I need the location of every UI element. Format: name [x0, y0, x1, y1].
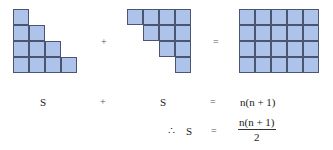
grid-cell	[287, 9, 303, 25]
grid-cell	[239, 57, 255, 73]
grid-cell	[29, 57, 45, 73]
grid-cell	[271, 57, 287, 73]
grid-cell	[303, 41, 319, 57]
grid-cell	[159, 9, 175, 25]
grid-cell	[303, 57, 319, 73]
grid-cell	[271, 25, 287, 41]
grid-cell	[159, 25, 175, 41]
grid-cell	[143, 25, 159, 41]
grid-cell	[287, 25, 303, 41]
grid-cell	[175, 25, 191, 41]
grid-cell	[45, 57, 61, 73]
grid-cell	[271, 41, 287, 57]
therefore-symbol: ∴	[168, 125, 175, 137]
equals-operator-result: =	[211, 125, 217, 137]
grid-cell	[239, 9, 255, 25]
grid-cell	[255, 25, 271, 41]
result-fraction: n(n + 1) 2	[238, 116, 276, 143]
grid-cell	[143, 9, 159, 25]
equals-operator-top: =	[213, 36, 219, 48]
product-expression: n(n + 1)	[240, 96, 276, 108]
label-s-middle: S	[160, 96, 166, 108]
fraction-denominator: 2	[238, 130, 276, 143]
grid-cell	[175, 41, 191, 57]
grid-cell	[13, 41, 29, 57]
grid-cell	[175, 9, 191, 25]
grid-cell	[271, 9, 287, 25]
grid-cell	[29, 25, 45, 41]
grid-cell	[13, 57, 29, 73]
grid-cell	[287, 41, 303, 57]
grid-cell	[255, 9, 271, 25]
label-s-left: S	[40, 96, 46, 108]
grid-cell	[239, 41, 255, 57]
fraction-numerator: n(n + 1)	[238, 116, 276, 130]
grid-cell	[239, 25, 255, 41]
label-s-result: S	[186, 125, 192, 137]
grid-cell	[13, 25, 29, 41]
grid-cell	[255, 57, 271, 73]
grid-cell	[45, 41, 61, 57]
grid-cell	[29, 41, 45, 57]
grid-cell	[255, 41, 271, 57]
grid-cell	[287, 57, 303, 73]
grid-cell	[127, 9, 143, 25]
grid-cell	[175, 57, 191, 73]
plus-operator: +	[100, 96, 106, 108]
grid-cell	[303, 9, 319, 25]
equals-operator: =	[210, 96, 216, 108]
grid-cell	[303, 25, 319, 41]
grid-cell	[13, 9, 29, 25]
grid-cell	[61, 57, 77, 73]
grid-cell	[159, 41, 175, 57]
plus-operator-top: +	[101, 36, 107, 48]
